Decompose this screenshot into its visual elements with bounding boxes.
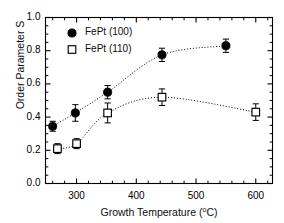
data-point-marker — [222, 42, 230, 50]
legend-marker-open-square — [68, 46, 76, 54]
y-tick-label: 0.0 — [10, 177, 41, 188]
x-axis-label-text: Growth Temperature (oC) — [101, 206, 218, 218]
y-tick-label: 0.6 — [10, 77, 41, 88]
data-point-marker — [73, 140, 81, 148]
data-point-marker — [104, 88, 112, 96]
x-tick-label: 600 — [236, 190, 276, 201]
x-tick-label: 500 — [176, 190, 216, 201]
y-tick-label: 0.4 — [10, 111, 41, 122]
y-tick-label: 0.8 — [10, 44, 41, 55]
data-point-marker — [104, 109, 112, 117]
data-point-marker — [158, 93, 166, 101]
trend-curves — [53, 46, 256, 149]
legend-marker-filled-circle — [68, 29, 76, 37]
data-point-marker — [252, 108, 260, 116]
data-point-marker — [54, 145, 62, 153]
data-point-marker — [49, 122, 57, 130]
y-axis-label-text: Order Parameter S — [14, 21, 26, 110]
error-bars — [50, 39, 259, 154]
data-point-marker — [71, 109, 79, 117]
x-axis-label: Growth Temperature (oC) — [45, 202, 273, 220]
data-point-marker — [158, 51, 166, 59]
legend-entry-label: FePt (110) — [85, 43, 132, 54]
x-axis-label-main: Growth Temperature ( — [101, 206, 203, 218]
x-tick-label: 300 — [57, 190, 97, 201]
y-tick-label: 1.0 — [10, 11, 41, 22]
figure-root: Order Parameter S Growth Temperature (oC… — [0, 0, 284, 223]
x-tick-label: 400 — [116, 190, 156, 201]
y-tick-label: 0.2 — [10, 144, 41, 155]
legend-entry-label: FePt (100) — [85, 26, 132, 37]
x-axis-label-tail: C) — [206, 206, 217, 218]
legend-markers — [68, 29, 76, 53]
trend-curve-series-1 — [57, 97, 255, 148]
